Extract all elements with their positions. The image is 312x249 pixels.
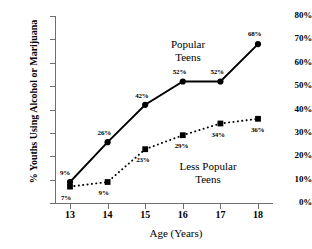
marker-square (142, 146, 148, 152)
marker-square (67, 184, 73, 190)
point-value-label: 68% (248, 30, 261, 38)
marker-square (255, 116, 261, 122)
series-label-popular-teens: Popular Teens (148, 38, 228, 64)
point-value-label: 42% (135, 92, 148, 100)
point-value-label: 34% (211, 131, 224, 139)
marker-square (105, 179, 111, 185)
point-value-label: 23% (136, 156, 149, 164)
point-value-label: 7% (61, 194, 71, 202)
point-value-label: 26% (98, 129, 111, 137)
marker-circle (180, 78, 186, 84)
marker-circle (105, 139, 111, 145)
point-value-label: 36% (251, 126, 264, 134)
point-value-label: 52% (173, 68, 186, 76)
point-value-label: 9% (60, 169, 70, 177)
marker-circle (255, 41, 261, 47)
series-label-popular-teens-line1: Popular (148, 38, 228, 51)
marker-circle (142, 102, 148, 108)
marker-circle (217, 78, 223, 84)
marker-square (218, 121, 224, 127)
point-value-label: 29% (175, 142, 188, 150)
point-value-label: 9% (99, 189, 109, 197)
series-label-less-popular-teens-line1: Less Popular (160, 160, 256, 173)
series-label-less-popular-teens-line2: Teens (160, 173, 256, 186)
series-label-less-popular-teens: Less Popular Teens (160, 160, 256, 186)
point-value-label: 52% (210, 68, 223, 76)
series-label-popular-teens-line2: Teens (148, 51, 228, 64)
marker-square (180, 132, 186, 138)
line-chart: % Youths Using Alcohol or Marijuana 0%10… (0, 0, 312, 249)
